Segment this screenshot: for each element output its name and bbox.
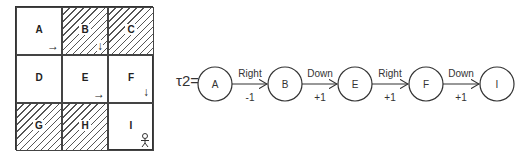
reward-label: +1 (455, 92, 467, 103)
reward-label: +1 (314, 92, 326, 103)
reward-label: +1 (384, 92, 396, 103)
action-label: Down (448, 68, 474, 79)
action-label: Down (307, 68, 333, 79)
action-label: Right (378, 68, 402, 79)
state-label: E (352, 79, 359, 90)
action-label: Right (238, 68, 262, 79)
state-label: I (496, 79, 499, 90)
trajectory-diagram: τ2= A B E F I Right -1 Down +1 Right +1 … (0, 0, 531, 161)
state-label: A (212, 79, 219, 90)
reward-label: -1 (246, 92, 255, 103)
state-label: F (423, 79, 429, 90)
trajectory-label: τ2= (176, 72, 199, 89)
state-label: B (282, 79, 289, 90)
